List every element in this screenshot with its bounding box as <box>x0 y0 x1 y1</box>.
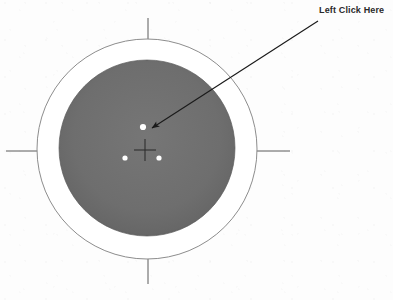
target-diagram <box>0 0 393 300</box>
marker-bottom-right-icon[interactable] <box>156 155 161 160</box>
marker-top-icon[interactable] <box>140 124 146 130</box>
callout-label: Left Click Here <box>319 4 384 16</box>
inner-disk <box>59 60 235 236</box>
marker-bottom-left-icon[interactable] <box>122 155 127 160</box>
screenshot-root: Left Click Here <box>0 0 393 300</box>
